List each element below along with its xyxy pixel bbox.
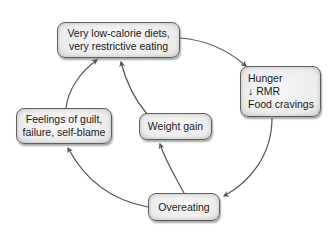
node-weight-gain: Weight gain	[139, 113, 212, 140]
node-label: Weight gain	[148, 120, 203, 133]
arrow-overeating-to-weight-gain	[160, 144, 184, 193]
arrow-guilt-to-diet	[66, 60, 97, 108]
node-label: Very low-calorie diets, very restrictive…	[67, 27, 169, 53]
arrow-hunger-to-overeating	[224, 118, 272, 196]
node-label: Feelings of guilt, failure, self-blame	[23, 113, 106, 139]
node-feelings-of-guilt: Feelings of guilt, failure, self-blame	[16, 108, 112, 144]
node-very-low-calorie-diets: Very low-calorie diets, very restrictive…	[57, 22, 180, 58]
node-label: Hunger ↓ RMR Food cravings	[248, 72, 314, 111]
node-overeating: Overeating	[148, 193, 220, 221]
arrow-weight-gain-to-diet	[121, 62, 147, 114]
node-hunger-rmr-cravings: Hunger ↓ RMR Food cravings	[240, 66, 321, 117]
node-label: Overeating	[158, 201, 209, 214]
arrow-overeating-to-guilt	[68, 148, 148, 207]
arrow-diet-to-hunger	[180, 38, 246, 66]
